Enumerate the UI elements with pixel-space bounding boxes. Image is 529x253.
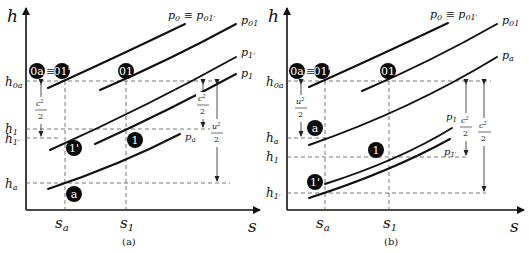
isobar-label-pa: pa [185,131,196,144]
ytick-ha: ha [266,131,279,146]
svg-text:2: 2 [481,134,486,143]
state-a: a [66,186,82,202]
svg-text:2: 2 [214,135,219,144]
hs-diagram-figure: h s p0 ≡ p01′ p01 p1′ p1 pa h0a h1 h1′ h… [0,0,529,253]
xtick-s1: s1 [120,214,134,233]
svg-text:a: a [71,188,78,201]
isobar-label-p1p: p1′ [241,46,255,60]
svg-text:2: 2 [463,129,468,138]
state-a: a [307,120,323,136]
isobar-label-pa: pa [502,49,514,63]
ytick-h0a: h0a [266,75,284,90]
svg-text:1: 1 [373,144,380,157]
h-axis-label: h [7,6,18,26]
ytick-h0a: h0a [5,75,23,90]
isobar-label-p1p: p1′ [444,146,457,159]
xtick-sa: sa [55,214,69,233]
svg-text:1': 1' [310,176,320,189]
state-01p: 01' [53,63,70,79]
ytick-h1: h1 [266,150,279,165]
ytick-h1p: h1′ [266,186,281,201]
isobar-label-p1: p1 [446,111,457,124]
state-1p: 1' [66,140,82,156]
svg-text:0a: 0a [30,65,44,78]
xtick-s1: s1 [383,214,397,233]
caption-a: (a) [122,236,136,247]
s-axis-label: s [248,216,257,236]
xtick-sa: sa [316,214,330,233]
state-01p: 01' [313,63,330,79]
state-1p: 1' [307,174,323,190]
svg-text:01: 01 [119,65,133,78]
svg-text:1': 1' [69,142,79,155]
state-1: 1 [127,132,143,148]
state-0a: 0a [29,63,45,79]
isobar-label-p0: p0 ≡ p01′ [430,8,478,22]
svg-text:01: 01 [381,65,395,78]
state-01: 01 [380,63,396,79]
caption-b: (b) [384,236,398,247]
svg-text:a: a [312,122,319,135]
state-01: 01 [118,63,134,79]
h-axis-label: h [268,6,279,26]
isobar-p1 [325,128,452,184]
svg-text:01': 01' [53,65,70,78]
svg-text:2: 2 [200,107,205,116]
svg-text:1: 1 [132,134,139,147]
panel-b: h s p0 ≡ p01′ p01 pa p1 p1′ h0a ha h1 h1… [266,6,524,247]
isobar-label-p1: p1 [241,67,253,81]
s-axis-label: s [510,216,519,236]
isobar-label-p0: p0 ≡ p01′ [168,9,216,23]
svg-text:0a: 0a [290,65,304,78]
panel-a: h s p0 ≡ p01′ p01 p1′ p1 pa h0a h1 h1′ h… [5,6,260,247]
state-0a: 0a [289,63,305,79]
isobar-label-p01: p01 [241,14,258,28]
isobar-label-p01: p01 [502,14,519,28]
svg-text:01': 01' [313,65,330,78]
isobar-p0 [48,24,185,88]
isobar-p01 [100,24,236,90]
ytick-ha: ha [5,177,18,192]
state-1: 1 [368,142,384,158]
svg-text:2: 2 [38,112,43,121]
svg-text:2: 2 [298,110,303,119]
